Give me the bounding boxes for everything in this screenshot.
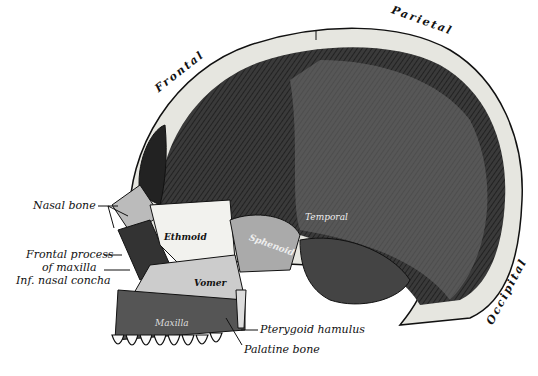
pterygoid-process [236,290,246,328]
skull-diagram: Frontal Parietal Occipital Ethmoid Sphen… [0,0,538,376]
skull-illustration [0,0,538,376]
label-maxilla: Maxilla [155,318,189,328]
label-ethmoid: Ethmoid [164,232,207,242]
callout-frontal-process-line1: Frontal process [26,249,113,261]
label-temporal: Temporal [305,212,348,222]
callout-palatine-bone: Palatine bone [244,344,320,356]
callout-inf-nasal-concha: Inf. nasal concha [16,275,111,287]
label-vomer: Vomer [194,278,226,288]
callout-frontal-process-line2: of maxilla [42,262,97,274]
callout-nasal-bone: Nasal bone [33,200,96,212]
callout-pterygoid-hamulus: Pterygoid hamulus [260,324,365,336]
